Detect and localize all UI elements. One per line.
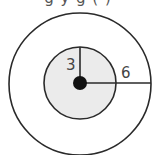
inner-radius-label: 3 — [66, 56, 76, 74]
center-point — [73, 76, 87, 90]
concentric-circles-diagram: 3 6 — [0, 0, 156, 155]
outer-radius-label: 6 — [121, 64, 131, 82]
